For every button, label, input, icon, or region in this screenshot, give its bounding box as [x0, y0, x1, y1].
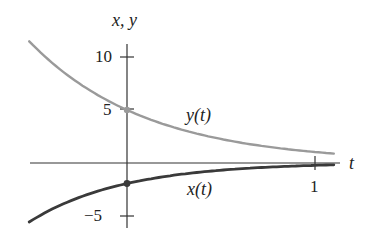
- tick-label-10: 10: [95, 48, 112, 65]
- series-x-label: x(t): [187, 180, 212, 198]
- tick-label-5: 5: [103, 101, 112, 118]
- series-y-label: y(t): [186, 106, 211, 124]
- series-y-curve: [29, 41, 334, 153]
- tick-label-t1: 1: [310, 178, 319, 195]
- tick-label-minus5: −5: [84, 207, 102, 224]
- series-y-initial-point: [124, 107, 130, 113]
- series-x-curve: [29, 165, 334, 222]
- y-axis-label: x, y: [112, 11, 137, 29]
- series-x-initial-point: [124, 180, 131, 187]
- t-axis-label: t: [349, 154, 354, 172]
